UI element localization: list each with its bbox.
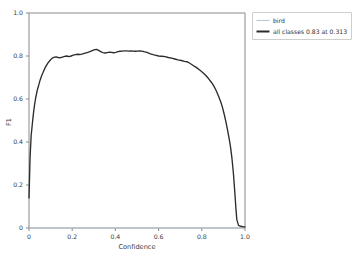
x-tick-label: 1.0 (240, 233, 250, 240)
x-axis-title: Confidence (118, 243, 155, 251)
y-tick-label: 1.0 (13, 9, 23, 16)
y-tick-label: 0.2 (13, 181, 23, 188)
legend-box (253, 13, 352, 40)
legend: bird all classes 0.83 at 0.313 (253, 13, 352, 40)
y-tick-label: 0.4 (13, 138, 23, 145)
axis-spines (29, 13, 245, 228)
series-line-all-classes (29, 49, 245, 227)
legend-label-all-classes: all classes 0.83 at 0.313 (273, 28, 347, 35)
x-tick-label: 0.8 (197, 233, 207, 240)
legend-label-bird: bird (273, 17, 285, 24)
x-tick-label: 0 (27, 233, 31, 240)
y-tick-labels: 0 0.2 0.4 0.6 0.8 1.0 (13, 9, 23, 231)
y-tick-label: 0 (19, 224, 23, 231)
y-axis-title: F1 (5, 118, 13, 126)
y-tick-label: 0.6 (13, 95, 23, 102)
f1-confidence-chart: 0 0.2 0.4 0.6 0.8 1.0 0 0.2 0.4 0.6 0.8 … (0, 0, 358, 260)
x-tick-label: 0.4 (110, 233, 120, 240)
x-tick-label: 0.2 (67, 233, 77, 240)
x-tick-labels: 0 0.2 0.4 0.6 0.8 1.0 (27, 233, 250, 240)
x-tick-label: 0.6 (154, 233, 164, 240)
y-tick-label: 0.8 (13, 52, 23, 59)
figure-canvas: 0 0.2 0.4 0.6 0.8 1.0 0 0.2 0.4 0.6 0.8 … (0, 0, 358, 260)
